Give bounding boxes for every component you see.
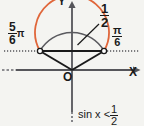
value-label-one-half: 1 2 xyxy=(100,2,109,29)
angle-label-pi-over-6: π 6 xyxy=(112,25,122,48)
fraction-five-sixths: 5 6 xyxy=(8,21,17,46)
origin-label: O xyxy=(63,71,72,83)
fraction-denominator: 6 xyxy=(112,37,122,48)
point-marker-pi-over-6 xyxy=(101,48,106,53)
radius-right xyxy=(72,51,104,70)
fraction-denominator: 2 xyxy=(110,116,118,126)
radius-left xyxy=(40,51,72,70)
y-axis-label: Y xyxy=(58,0,65,7)
inequality-lhs: sin x < xyxy=(78,108,110,120)
fraction-denominator: 2 xyxy=(100,16,109,29)
inequality-caption: sin x < 1 2 xyxy=(78,104,118,126)
fraction-numerator: 1 xyxy=(100,2,109,16)
pi-symbol: π xyxy=(17,28,25,39)
angle-label-5pi-over-6: 5 6 π xyxy=(8,21,24,46)
y-axis-arrow-icon xyxy=(68,1,75,8)
figure-canvas xyxy=(0,0,144,126)
fraction-pi-over-six: π 6 xyxy=(112,25,122,48)
unit-circle-figure: 5 6 π π 6 1 2 O X Y sin x < 1 2 xyxy=(0,0,144,126)
fraction-one-half: 1 2 xyxy=(110,104,118,126)
point-marker-5pi-over-6 xyxy=(37,48,42,53)
x-axis-label: X xyxy=(129,66,137,78)
fraction-denominator: 6 xyxy=(8,34,17,46)
fraction-one-half: 1 2 xyxy=(100,2,109,29)
